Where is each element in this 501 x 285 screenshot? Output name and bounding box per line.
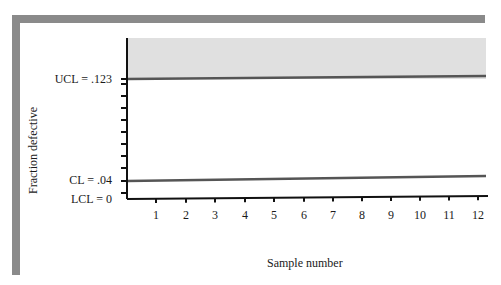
x-tick-label: 12 — [468, 208, 488, 223]
ucl-label: UCL = .123 — [12, 72, 112, 87]
x-tick-label: 8 — [352, 208, 372, 223]
x-tick-label: 1 — [146, 208, 166, 223]
x-tick-label: 5 — [264, 208, 284, 223]
cl-line — [127, 176, 486, 181]
x-tick-label: 3 — [205, 208, 225, 223]
x-tick-label: 6 — [294, 208, 314, 223]
x-tick-label: 10 — [410, 208, 430, 223]
lcl-label: LCL = 0 — [12, 192, 112, 207]
x-tick-label: 7 — [323, 208, 343, 223]
x-axis-title: Sample number — [267, 256, 343, 271]
x-tick-label: 2 — [176, 208, 196, 223]
x-tick-label: 9 — [381, 208, 401, 223]
x-axis — [127, 196, 488, 199]
y-axis-title: Fraction defective — [26, 107, 41, 194]
x-tick-label: 11 — [439, 208, 459, 223]
out-of-control-zone — [127, 38, 486, 79]
control-chart — [0, 0, 501, 285]
x-tick-label: 4 — [235, 208, 255, 223]
